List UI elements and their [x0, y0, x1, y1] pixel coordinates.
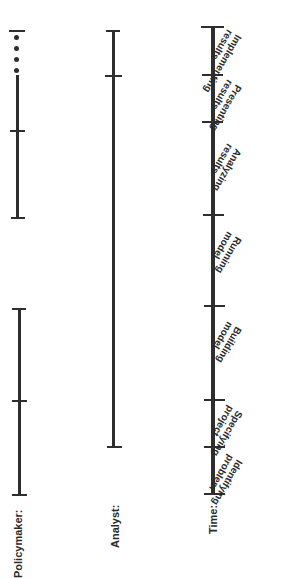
policymaker-tick: [10, 130, 25, 132]
policymaker-top-cap: [9, 30, 25, 32]
phase-label-identifying-problem: Identifying problem: [201, 453, 244, 507]
time-tick: [201, 26, 224, 28]
policymaker-tick: [12, 400, 27, 402]
policymaker-cap: [12, 494, 27, 496]
continuation-dot: [14, 35, 19, 40]
continuation-dot: [14, 46, 19, 51]
policymaker-segment-upper: [16, 75, 19, 217]
continuation-dot: [14, 57, 19, 62]
analyst-tick: [105, 75, 122, 77]
time-tick: [204, 399, 225, 401]
continuation-dot: [14, 68, 19, 73]
policymaker-cap: [11, 217, 25, 219]
policymaker-label: Policymaker:: [12, 510, 24, 578]
phase-label-analyzing-results: Analyzing results: [202, 142, 243, 193]
phase-label-specifying-project: Specifying project: [201, 404, 244, 458]
analyst-segment: [112, 30, 115, 447]
analyst-bottom-cap: [107, 446, 122, 448]
analyst-label: Analyst:: [109, 505, 121, 548]
time-tick: [203, 214, 224, 216]
time-tick: [204, 305, 225, 307]
time-label: Time:: [207, 505, 219, 534]
